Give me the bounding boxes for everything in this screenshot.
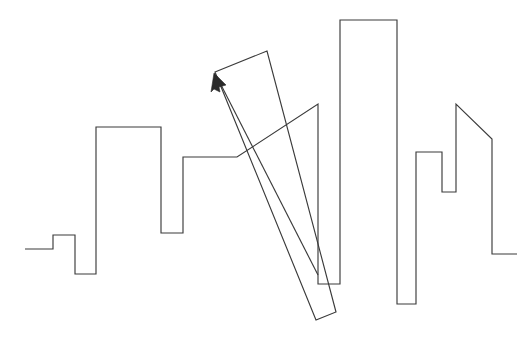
drawing-canvas: Abstract skyline line drawing with overl…: [0, 0, 531, 337]
canvas-background: [0, 0, 531, 337]
figure-svg: Abstract skyline line drawing with overl…: [0, 0, 531, 337]
